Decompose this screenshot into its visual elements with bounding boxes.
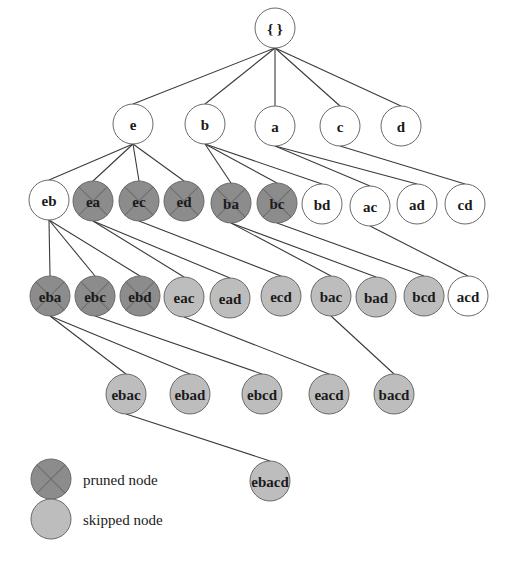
node-label: { } bbox=[267, 21, 283, 37]
tree-edge-root-b bbox=[205, 48, 275, 104]
tree-node-b: b bbox=[185, 104, 225, 144]
tree-edge-e-ea bbox=[93, 144, 133, 181]
node-label: eac bbox=[174, 290, 195, 306]
tree-edge-root-e bbox=[133, 48, 275, 104]
node-label: ac bbox=[363, 199, 378, 215]
node-label: bc bbox=[270, 196, 285, 212]
tree-edge-ea-eac bbox=[93, 221, 184, 277]
node-label: ed bbox=[177, 194, 193, 210]
tree-node-ebcd: ebcd bbox=[242, 374, 282, 414]
node-label: e bbox=[130, 117, 137, 133]
tree-edge-e-ec bbox=[133, 144, 139, 181]
tree-edge-ebac-ebacd bbox=[126, 414, 270, 461]
node-label: bac bbox=[320, 289, 343, 305]
node-label: ebac bbox=[111, 387, 141, 403]
tree-edge-eb-eba bbox=[49, 220, 50, 276]
node-label: c bbox=[337, 119, 344, 135]
tree-node-ebc: ebc bbox=[75, 276, 115, 316]
tree-node-ecd: ecd bbox=[261, 276, 301, 316]
node-label: a bbox=[271, 119, 279, 135]
tree-node-root: { } bbox=[255, 8, 295, 48]
tree-edge-e-eb bbox=[49, 144, 133, 180]
tree-edge-eba-ebac bbox=[50, 316, 126, 374]
tree-node-c: c bbox=[320, 106, 360, 146]
node-label: ebad bbox=[175, 387, 207, 403]
tree-edge-c-cd bbox=[340, 146, 465, 184]
tree-node-ad: ad bbox=[397, 184, 437, 224]
tree-node-bc: bc bbox=[257, 183, 297, 223]
node-label: ecd bbox=[270, 289, 292, 305]
tree-node-ebd: ebd bbox=[120, 276, 160, 316]
node-label: bcd bbox=[412, 289, 436, 305]
node-label: eacd bbox=[314, 387, 344, 403]
tree-edge-b-bc bbox=[205, 144, 277, 183]
tree-node-ac: ac bbox=[350, 186, 390, 226]
tree-edge-eac-eacd bbox=[184, 317, 329, 374]
tree-edge-root-d bbox=[275, 48, 401, 106]
tree-node-ebac: ebac bbox=[106, 374, 146, 414]
tree-edge-bac-bacd bbox=[331, 316, 394, 374]
tree-node-bacd: bacd bbox=[374, 374, 414, 414]
tree-edge-ba-bad bbox=[231, 223, 376, 277]
node-label: ad bbox=[409, 197, 426, 213]
tree-node-cd: cd bbox=[445, 184, 485, 224]
tree-node-bac: bac bbox=[311, 276, 351, 316]
tree-edge-a-ac bbox=[275, 146, 370, 186]
node-label: cd bbox=[458, 197, 474, 213]
tree-edge-ba-bac bbox=[231, 223, 331, 276]
node-label: bacd bbox=[379, 387, 411, 403]
node-label: d bbox=[397, 119, 406, 135]
legend-swatch-skipped bbox=[31, 499, 71, 539]
node-label: ebacd bbox=[251, 474, 289, 490]
tree-node-ed: ed bbox=[164, 181, 204, 221]
node-label: bad bbox=[364, 290, 389, 306]
legend-label-skipped: skipped node bbox=[83, 512, 163, 528]
node-label: bd bbox=[314, 197, 331, 213]
node-label: eba bbox=[39, 289, 62, 305]
tree-node-ebad: ebad bbox=[170, 374, 210, 414]
tree-edge-root-c bbox=[275, 48, 340, 106]
tree-nodes: { }ebacdebeaecedbabcbdacadcdebaebcebdeac… bbox=[29, 8, 488, 501]
tree-edge-e-ed bbox=[133, 144, 184, 181]
tree-edge-b-ba bbox=[205, 144, 231, 183]
tree-node-ec: ec bbox=[119, 181, 159, 221]
tree-node-eba: eba bbox=[30, 276, 70, 316]
tree-edge-eb-ebc bbox=[49, 220, 95, 276]
tree-edge-a-ad bbox=[275, 146, 417, 184]
tree-node-a: a bbox=[255, 106, 295, 146]
node-label: ebd bbox=[128, 289, 152, 305]
node-label: ebc bbox=[84, 289, 106, 305]
tree-node-ea: ea bbox=[73, 181, 113, 221]
tree-node-eb: eb bbox=[29, 180, 69, 220]
node-label: acd bbox=[457, 289, 480, 305]
tree-node-ead: ead bbox=[210, 278, 250, 318]
legend: pruned nodeskipped node bbox=[31, 459, 163, 539]
tree-node-ebacd: ebacd bbox=[250, 461, 290, 501]
node-label: ba bbox=[223, 196, 239, 212]
tree-node-d: d bbox=[381, 106, 421, 146]
itemset-search-tree-diagram: { }ebacdebeaecedbabcbdacadcdebaebcebdeac… bbox=[0, 0, 515, 574]
node-label: b bbox=[201, 117, 209, 133]
tree-node-bad: bad bbox=[356, 277, 396, 317]
legend-swatch-pruned bbox=[31, 459, 71, 499]
tree-node-ba: ba bbox=[211, 183, 251, 223]
tree-edge-ac-acd bbox=[370, 226, 468, 276]
node-label: ea bbox=[86, 194, 101, 210]
legend-label-pruned: pruned node bbox=[83, 472, 158, 488]
node-label: ec bbox=[132, 194, 146, 210]
tree-edge-eb-ebd bbox=[49, 220, 140, 276]
node-label: ead bbox=[219, 291, 242, 307]
tree-node-acd: acd bbox=[448, 276, 488, 316]
node-label: eb bbox=[42, 193, 57, 209]
tree-node-eacd: eacd bbox=[309, 374, 349, 414]
tree-node-eac: eac bbox=[164, 277, 204, 317]
tree-node-bcd: bcd bbox=[404, 276, 444, 316]
node-label: ebcd bbox=[247, 387, 278, 403]
skipped-node-circle bbox=[31, 499, 71, 539]
tree-edge-b-bd bbox=[205, 144, 322, 184]
tree-node-bd: bd bbox=[302, 184, 342, 224]
tree-node-e: e bbox=[113, 104, 153, 144]
